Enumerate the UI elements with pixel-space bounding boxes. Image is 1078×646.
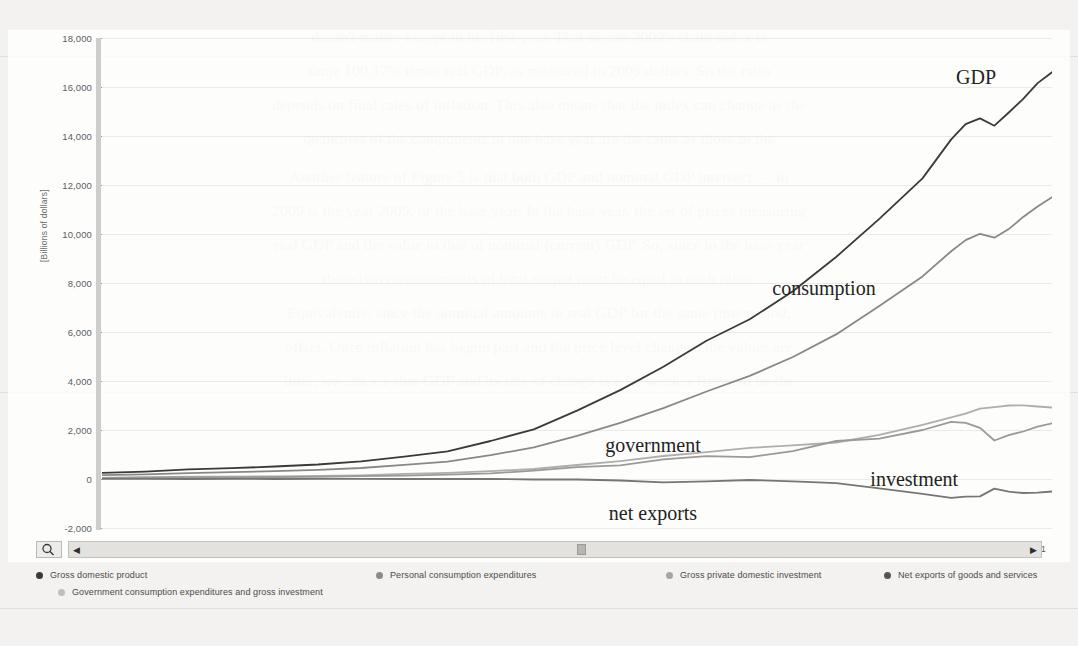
y-tick-label: 14,000 [62, 131, 92, 142]
annotation-label: net exports [609, 502, 697, 525]
legend-label: Net exports of goods and services [898, 570, 1037, 580]
legend-label: Government consumption expenditures and … [72, 587, 323, 597]
scroll-right-arrow-icon[interactable]: ▶ [1026, 542, 1041, 557]
legend-label: Gross domestic product [50, 570, 147, 580]
legend-swatch-icon [58, 589, 65, 596]
y-tick-label: 4,000 [68, 376, 92, 387]
legend-item[interactable]: Personal consumption expenditures [376, 570, 536, 580]
y-tick-label: -2,000 [64, 523, 92, 534]
y-tick-label: 6,000 [68, 327, 92, 338]
y-tick-label: 18,000 [62, 33, 92, 44]
legend-item[interactable]: Net exports of goods and services [884, 570, 1037, 580]
y-tick-label: 0 [87, 474, 92, 485]
y-tick-label: 12,000 [62, 180, 92, 191]
plot-area: [Billions of dollars] 18,00016,00014,000… [8, 30, 1070, 530]
annotation-label: consumption [772, 276, 875, 299]
legend-swatch-icon [666, 572, 673, 579]
legend-item[interactable]: Gross private domestic investment [666, 570, 821, 580]
legend-swatch-icon [376, 572, 383, 579]
y-tick-label: 8,000 [68, 278, 92, 289]
y-axis-title: [Billions of dollars] [39, 189, 49, 262]
y-tick-label: 10,000 [62, 229, 92, 240]
y-tick-label: 16,000 [62, 82, 92, 93]
chart-card: [Billions of dollars] 18,00016,00014,000… [8, 30, 1070, 562]
legend-item[interactable]: Government consumption expenditures and … [58, 587, 323, 597]
legend-swatch-icon [36, 572, 43, 579]
y-axis-bar [96, 38, 101, 530]
chart-controls: ◀ ▶ [36, 540, 1042, 560]
series-canvas: GDPconsumptiongovernmentinvestmentnet ex… [102, 38, 1052, 528]
series-svg [102, 38, 1052, 528]
page-rule [0, 608, 1078, 609]
magnifier-icon[interactable] [36, 541, 62, 558]
scroll-left-arrow-icon[interactable]: ◀ [69, 542, 84, 557]
legend-swatch-icon [884, 572, 891, 579]
annotation-label: investment [870, 468, 958, 491]
horizontal-scrollbar[interactable]: ◀ ▶ [68, 541, 1042, 558]
legend-label: Personal consumption expenditures [390, 570, 536, 580]
legend-item[interactable]: Gross domestic product [36, 570, 147, 580]
series-line [102, 72, 1052, 473]
annotation-label: GDP [956, 66, 996, 89]
y-tick-label: 2,000 [68, 425, 92, 436]
scrollbar-thumb[interactable] [577, 544, 586, 555]
legend-label: Gross private domestic investment [680, 570, 821, 580]
annotation-label: government [605, 433, 701, 456]
